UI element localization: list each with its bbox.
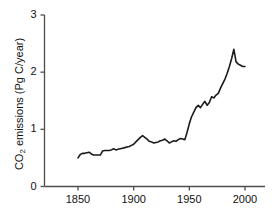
y-axis-label-prefix: CO [13, 154, 25, 171]
chart-figure: 0 1 2 3 1850 1900 1950 2000 CO2 emission… [0, 0, 278, 218]
y-axis-label-subscript: 2 [18, 149, 27, 153]
y-tick-label-0: 0 [23, 180, 37, 192]
y-axis-label-suffix: emissions (Pg C/year) [13, 38, 25, 149]
chart-plot-area [0, 0, 278, 218]
y-axis-label: CO2 emissions (Pg C/year) [13, 29, 25, 179]
x-tick-label-2000: 2000 [225, 193, 265, 205]
x-tick-label-1900: 1900 [114, 193, 154, 205]
data-series-line [78, 49, 245, 158]
y-tick-label-3: 3 [23, 8, 37, 20]
x-tick-label-1950: 1950 [169, 193, 209, 205]
x-tick-label-1850: 1850 [58, 193, 98, 205]
